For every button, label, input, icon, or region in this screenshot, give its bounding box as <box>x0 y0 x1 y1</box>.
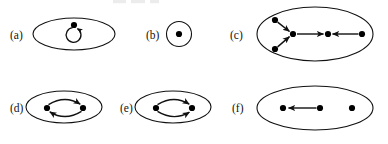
panel-c-node-right <box>359 31 365 37</box>
panel-d: (d) <box>10 91 102 123</box>
panel-a-label: (a) <box>10 29 23 42</box>
panel-e-edge-top-left-to-right <box>158 99 190 104</box>
panel-f-label: (f) <box>232 102 244 115</box>
panel-c-edge-upperleft-to-hub <box>278 22 290 31</box>
panel-d-node-left <box>44 105 50 111</box>
panel-c-label: (c) <box>230 29 243 42</box>
figure-canvas: (a) (b) (c) (d) <box>0 0 388 144</box>
panel-d-edge-left-to-right <box>49 99 81 104</box>
panel-a-node <box>71 22 77 28</box>
panel-c-edge-lowerleft-to-hub <box>278 37 290 47</box>
panel-c-node-middle <box>325 31 331 37</box>
panel-f-node-right-isolated <box>349 105 355 111</box>
panel-b-node <box>176 31 182 37</box>
panel-e-container-ellipse <box>135 91 211 123</box>
panel-e-edge-bottom-left-to-right <box>158 111 190 116</box>
panel-f-node-left <box>280 105 286 111</box>
panel-e-label: (e) <box>120 102 133 115</box>
panel-d-label: (d) <box>10 102 24 115</box>
panel-c-node-upper-left <box>272 17 278 23</box>
cropped-header-remnant <box>113 0 159 3</box>
panel-d-node-right <box>80 105 86 111</box>
panel-f-node-middle <box>317 105 323 111</box>
panel-c-node-lower-left <box>272 46 278 52</box>
panel-e-node-right <box>189 105 195 111</box>
panel-d-edge-right-to-left <box>50 111 82 116</box>
panel-d-container-ellipse <box>26 91 102 123</box>
panel-f: (f) <box>232 86 373 130</box>
panel-c-node-hub <box>290 31 296 37</box>
panel-e: (e) <box>120 91 211 123</box>
panel-c: (c) <box>230 7 373 61</box>
panel-e-node-left <box>153 105 159 111</box>
panel-a: (a) <box>10 18 115 50</box>
panel-a-self-loop-edge <box>66 28 81 43</box>
panel-b: (b) <box>146 22 192 47</box>
panel-b-label: (b) <box>146 29 160 42</box>
